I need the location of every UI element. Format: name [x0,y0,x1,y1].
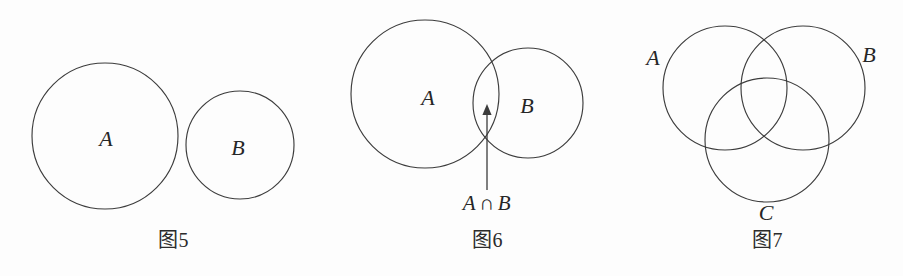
fig5-set-b-label: B [231,137,244,159]
fig5-caption-number: 5 [178,229,189,251]
fig6-diagram-canvas [320,0,620,276]
fig7-set-b-label: B [862,44,875,66]
intersection-operator-icon: ∩ [476,191,498,215]
fig6-set-a-label: A [421,87,434,109]
fig7-caption-prefix: 图 [752,228,772,252]
fig6-intersection-annotation: A∩B [463,193,511,214]
figure-panel-fig6: A B A∩B 图6 [320,0,620,276]
fig6-caption-prefix: 图 [472,228,492,252]
fig6-annotation-right-operand: B [498,191,511,215]
fig7-set-a-label: A [646,47,659,69]
fig6-set-b-label: B [520,95,533,117]
fig5-set-a-label: A [99,128,112,150]
fig5-caption-prefix: 图 [158,228,178,252]
figure-panel-fig5: A B 图5 [0,0,320,276]
fig6-intersection-arrow-head [482,104,491,115]
fig7-set-c-circle [705,78,829,202]
fig6-annotation-left-operand: A [463,191,476,215]
fig7-caption: 图7 [752,230,783,250]
fig6-caption-number: 6 [492,229,503,251]
fig7-caption-number: 7 [772,229,783,251]
fig5-caption: 图5 [158,230,189,250]
figure-sheet: A B 图5 A B A∩B 图6 A B C 图7 [0,0,903,276]
fig7-set-b-circle [741,26,865,150]
figure-panel-fig7: A B C 图7 [620,0,903,276]
fig7-set-c-label: C [759,202,774,224]
fig6-caption: 图6 [472,230,503,250]
fig7-set-a-circle [663,26,787,150]
